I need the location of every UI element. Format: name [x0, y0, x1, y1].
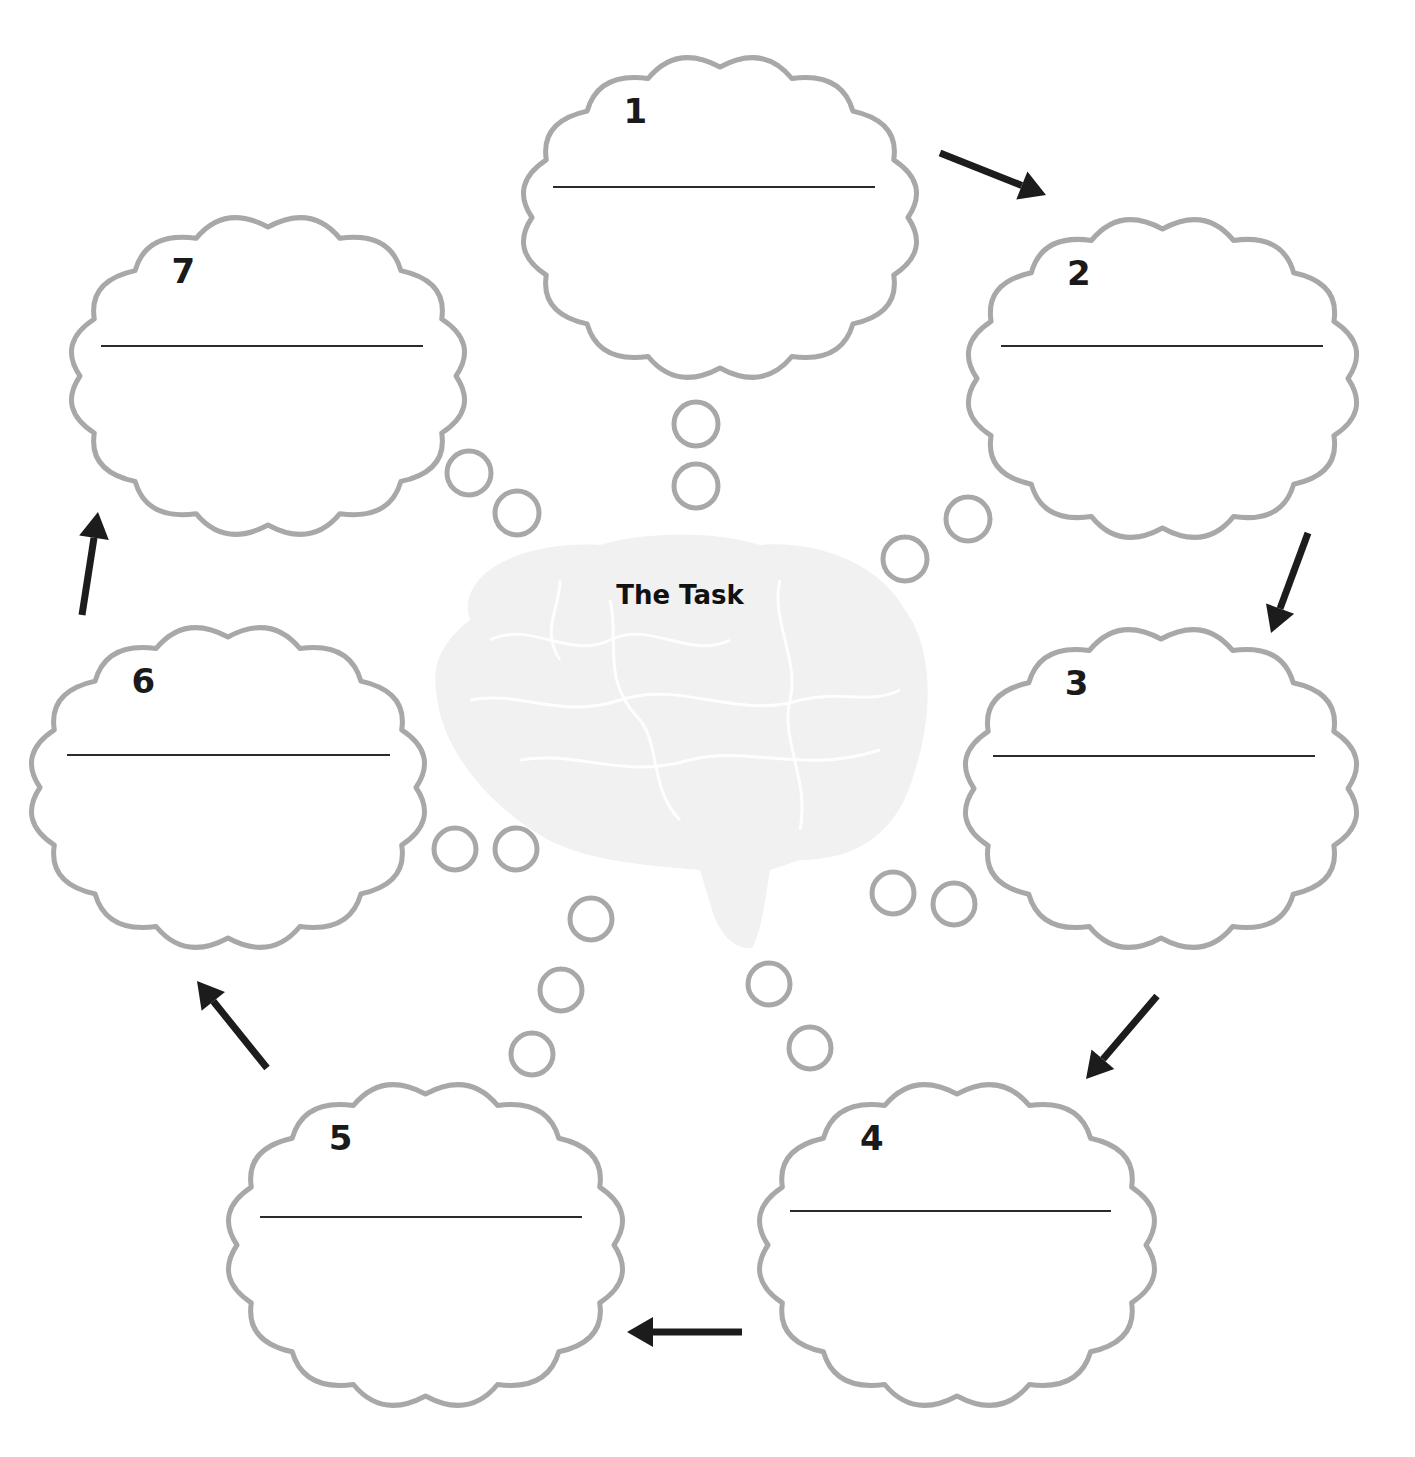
thought-bubble-dot — [511, 1033, 553, 1075]
step-cloud-4[interactable]: 4 — [760, 1085, 1155, 1406]
task-thought-map: 1234567 The Task — [0, 0, 1415, 1457]
step-number: 2 — [1067, 253, 1091, 293]
arrow-2-to-3-icon — [1266, 533, 1308, 633]
cloud-outline — [523, 58, 916, 378]
cloud-outline — [228, 1085, 622, 1406]
thought-bubble-dot — [495, 828, 537, 870]
thought-bubble-dot — [789, 1027, 831, 1069]
cloud-outline — [760, 1085, 1155, 1406]
thought-bubble-dot — [495, 491, 539, 535]
center-title: The Task — [616, 580, 744, 610]
thought-bubble-dot — [570, 898, 612, 940]
thought-bubble-dot — [674, 464, 718, 508]
cloud-outline — [31, 628, 424, 948]
step-cloud-7[interactable]: 7 — [71, 218, 464, 535]
step-cloud-6[interactable]: 6 — [31, 628, 424, 948]
arrow-1-to-2-icon — [940, 153, 1046, 199]
step-number: 7 — [171, 251, 195, 291]
step-cloud-2[interactable]: 2 — [968, 220, 1356, 538]
thought-bubble-dot — [883, 537, 927, 581]
thought-bubble-dot — [434, 828, 476, 870]
step-number: 1 — [623, 91, 647, 131]
step-number: 5 — [329, 1118, 353, 1158]
thought-bubble-dot — [933, 883, 975, 925]
thought-bubble-dot — [447, 451, 491, 495]
cloud-outline — [968, 220, 1356, 538]
cloud-outline — [71, 218, 464, 535]
arrow-6-to-7-icon — [79, 512, 109, 615]
thought-bubble-dot — [872, 872, 914, 914]
arrow-5-to-6-icon — [197, 981, 267, 1068]
thought-bubble-dot — [748, 963, 790, 1005]
step-cloud-5[interactable]: 5 — [228, 1085, 622, 1406]
step-cloud-1[interactable]: 1 — [523, 58, 916, 378]
step-number: 4 — [860, 1118, 884, 1158]
step-number: 3 — [1065, 663, 1089, 703]
step-cloud-3[interactable]: 3 — [965, 630, 1356, 948]
thought-bubble-dot — [674, 402, 718, 446]
arrow-3-to-4-icon — [1086, 996, 1157, 1079]
step-number: 6 — [131, 661, 155, 701]
thought-bubble-dot — [946, 497, 990, 541]
cloud-outline — [965, 630, 1356, 948]
thought-bubble-dot — [540, 969, 582, 1011]
arrow-4-to-5-icon — [627, 1317, 742, 1347]
